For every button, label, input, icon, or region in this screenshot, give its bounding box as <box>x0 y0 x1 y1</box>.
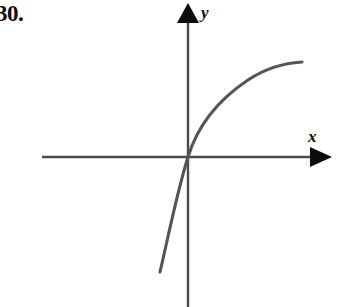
y-axis-label: y <box>199 3 209 22</box>
function-curve <box>160 62 302 272</box>
coordinate-plot: x y <box>0 0 338 307</box>
x-axis-arrowhead-icon <box>310 147 332 167</box>
y-axis-arrowhead-icon <box>177 3 199 23</box>
x-axis-label: x <box>307 127 317 146</box>
figure-container: 30. x y <box>0 0 338 307</box>
